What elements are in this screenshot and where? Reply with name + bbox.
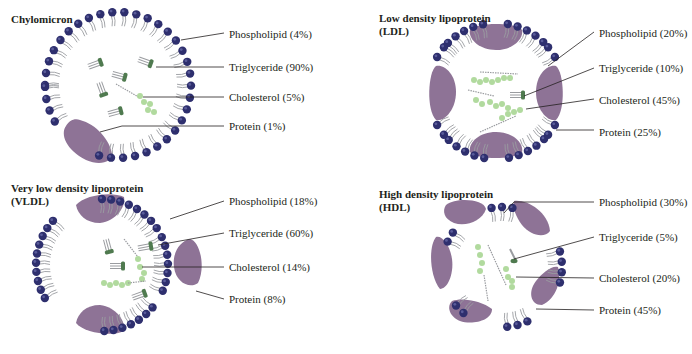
panel-title-line1: Very low density lipoprotein bbox=[11, 182, 143, 195]
panel-title: Chylomicron bbox=[11, 13, 73, 26]
label-triglyceride: Triglyceride (10%) bbox=[599, 62, 683, 74]
lipid-core-icon bbox=[468, 72, 525, 132]
chylomicron-diagram bbox=[0, 0, 346, 177]
panel-hdl: High density lipoprotein (HDL) Phospholi… bbox=[346, 177, 692, 354]
label-phospholipid: Phospholipid (18%) bbox=[229, 195, 317, 207]
label-cholesterol: Cholesterol (20%) bbox=[599, 272, 680, 284]
panel-title-line2: (VLDL) bbox=[11, 195, 49, 208]
panel-vldl: Very low density lipoprotein (VLDL) Phos… bbox=[0, 177, 346, 354]
panel-title-line1: Low density lipoprotein bbox=[379, 12, 491, 25]
label-phospholipid: Phospholipid (4%) bbox=[229, 28, 312, 40]
label-triglyceride: Triglyceride (60%) bbox=[229, 227, 313, 239]
label-cholesterol: Cholesterol (14%) bbox=[229, 261, 310, 273]
label-triglyceride: Triglyceride (90%) bbox=[229, 61, 313, 73]
label-protein: Protein (1%) bbox=[229, 120, 286, 132]
lipid-core-icon bbox=[101, 238, 154, 302]
leader-lines bbox=[100, 33, 224, 132]
panel-title-line2: (LDL) bbox=[379, 25, 409, 38]
label-cholesterol: Cholesterol (45%) bbox=[599, 94, 680, 106]
label-phospholipid: Phospholipid (20%) bbox=[599, 27, 687, 39]
panel-title-line1: High density lipoprotein bbox=[379, 188, 493, 201]
label-cholesterol: Cholesterol (5%) bbox=[229, 91, 304, 103]
panel-title-line2: (HDL) bbox=[379, 201, 410, 214]
label-protein: Protein (25%) bbox=[599, 126, 661, 138]
panel-chylomicron: Chylomicron Phospholipid (4%) Triglyceri… bbox=[0, 0, 346, 177]
label-protein: Protein (8%) bbox=[229, 293, 286, 305]
lipid-core-icon bbox=[475, 244, 518, 301]
label-phospholipid: Phospholipid (30%) bbox=[599, 196, 687, 208]
lipid-core-icon bbox=[87, 55, 157, 118]
label-protein: Protein (45%) bbox=[599, 304, 661, 316]
phospholipid-membrane-icon bbox=[41, 8, 195, 162]
label-triglyceride: Triglyceride (5%) bbox=[599, 231, 678, 243]
panel-ldl: Low density lipoprotein (LDL) Phospholip… bbox=[346, 0, 692, 177]
protein-icon bbox=[64, 119, 112, 163]
